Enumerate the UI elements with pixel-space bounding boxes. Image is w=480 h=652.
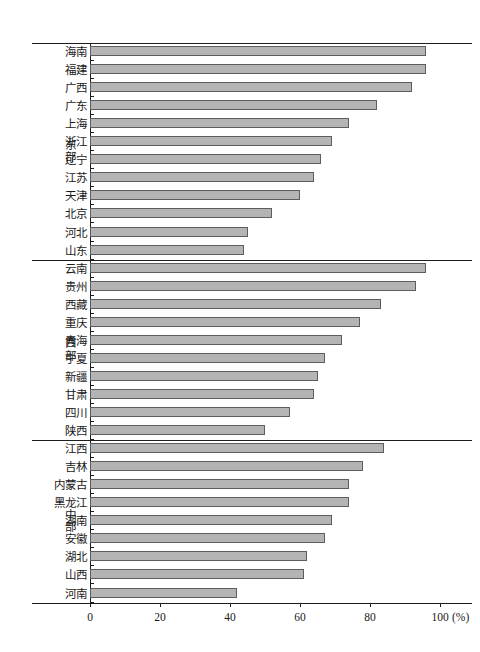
chart-row: 河南: [32, 585, 472, 603]
chart-row: 山东: [32, 242, 472, 260]
chart-bar: [90, 100, 377, 110]
chart-bar: [90, 172, 314, 182]
chart-row: 吉林: [32, 458, 472, 476]
chart-row: 浙江: [32, 133, 472, 151]
chart-row: 广东: [32, 97, 472, 115]
chart-bar: [90, 353, 325, 363]
chart-bar: [90, 263, 426, 273]
chart-bar: [90, 533, 325, 543]
x-axis-tick-label: 60: [280, 610, 320, 624]
chart-row: 湖南: [32, 512, 472, 530]
chart-bar: [90, 227, 248, 237]
x-axis-tick-label: 20: [140, 610, 180, 624]
chart-row: 辽宁: [32, 151, 472, 169]
region-label-char: 部: [62, 151, 78, 164]
category-label: 江西: [34, 440, 90, 458]
chart-bar: [90, 46, 426, 56]
category-label: 河南: [34, 585, 90, 603]
group-divider-line: [32, 603, 472, 604]
chart-bar: [90, 299, 381, 309]
chart-row: 陕西: [32, 422, 472, 440]
x-axis-tick: [160, 603, 161, 607]
chart-bar: [90, 479, 349, 489]
chart-row: 海南: [32, 43, 472, 61]
chart-bar: [90, 208, 272, 218]
chart-row: 广西: [32, 79, 472, 97]
region-label-char: 西: [62, 337, 78, 350]
chart-bar: [90, 389, 314, 399]
chart-bar: [90, 443, 384, 453]
chart-bar: [90, 569, 304, 579]
category-label: 江苏: [34, 169, 90, 187]
chart-bar: [90, 497, 349, 507]
x-axis-tick: [370, 603, 371, 607]
chart-row: 上海: [32, 115, 472, 133]
category-label: 广东: [34, 97, 90, 115]
x-axis-unit-label: (%): [452, 610, 469, 624]
category-label: 西藏: [34, 296, 90, 314]
chart-bar: [90, 136, 332, 146]
category-label: 福建: [34, 61, 90, 79]
x-axis-tick: [230, 603, 231, 607]
category-label: 陕西: [34, 422, 90, 440]
chart-row: 宁夏: [32, 350, 472, 368]
chart-bar: [90, 154, 321, 164]
chart-row: 江苏: [32, 169, 472, 187]
chart-row: 安徽: [32, 530, 472, 548]
x-axis-tick: [300, 603, 301, 607]
chart-row: 江西: [32, 440, 472, 458]
category-label: 吉林: [34, 458, 90, 476]
chart-row: 重庆: [32, 314, 472, 332]
chart-bar: [90, 335, 342, 345]
chart-row: 贵州: [32, 278, 472, 296]
region-label-1: 东部: [62, 139, 78, 164]
chart-row: 北京: [32, 205, 472, 223]
bar-chart: 海南福建广西广东上海浙江辽宁江苏天津北京河北山东东部云南贵州西藏重庆青海宁夏新疆…: [0, 0, 480, 652]
group-divider-line: [32, 440, 472, 441]
category-label: 甘肃: [34, 386, 90, 404]
group-divider-line: [32, 260, 472, 261]
x-axis-tick: [440, 603, 441, 607]
region-label-char: 东: [62, 139, 78, 152]
category-label: 四川: [34, 404, 90, 422]
category-label: 湖北: [34, 548, 90, 566]
group-divider-line: [32, 43, 472, 44]
chart-row: 福建: [32, 61, 472, 79]
x-axis-tick-label: 0: [70, 610, 110, 624]
category-label: 贵州: [34, 278, 90, 296]
category-label: 河北: [34, 224, 90, 242]
category-label: 内蒙古: [34, 476, 90, 494]
chart-row: 河北: [32, 224, 472, 242]
chart-row: 甘肃: [32, 386, 472, 404]
region-label-3: 中部: [62, 509, 78, 534]
chart-row: 西藏: [32, 296, 472, 314]
chart-bar: [90, 407, 290, 417]
chart-row: 四川: [32, 404, 472, 422]
chart-bar: [90, 82, 412, 92]
chart-row: 天津: [32, 187, 472, 205]
x-axis-tick-label: 80: [350, 610, 390, 624]
region-label-2: 西部: [62, 337, 78, 362]
chart-row: 新疆: [32, 368, 472, 386]
chart-row: 云南: [32, 260, 472, 278]
chart-row: 内蒙古: [32, 476, 472, 494]
category-label: 广西: [34, 79, 90, 97]
x-axis-tick: [90, 603, 91, 607]
chart-bar: [90, 588, 237, 598]
chart-bar: [90, 281, 416, 291]
category-label: 云南: [34, 260, 90, 278]
chart-row: 黑龙江: [32, 494, 472, 512]
category-label: 新疆: [34, 368, 90, 386]
region-label-char: 中: [62, 509, 78, 522]
region-label-char: 部: [62, 350, 78, 363]
chart-bar: [90, 317, 360, 327]
category-label: 上海: [34, 115, 90, 133]
chart-bar: [90, 64, 426, 74]
category-label: 北京: [34, 205, 90, 223]
plot-area: 海南福建广西广东上海浙江辽宁江苏天津北京河北山东东部云南贵州西藏重庆青海宁夏新疆…: [32, 43, 472, 605]
chart-bar: [90, 551, 307, 561]
x-axis-tick-label: 40: [210, 610, 250, 624]
chart-bar: [90, 245, 244, 255]
chart-row: 湖北: [32, 548, 472, 566]
chart-bar: [90, 371, 318, 381]
